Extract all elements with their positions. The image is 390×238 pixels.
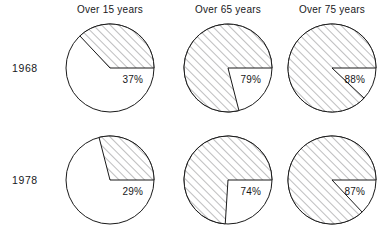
- pie-slice-shaded: [288, 24, 376, 112]
- pie-chart-1978-over-15-years: 29%: [58, 128, 162, 232]
- row-label-1968: 1968: [12, 62, 38, 74]
- pie-chart-1968-over-75-years: 88%: [280, 16, 384, 120]
- pie-value-label-1968-over-75-years: 88%: [345, 74, 366, 85]
- column-header-over-75-years: Over 75 years: [299, 4, 365, 15]
- column-header-over-65-years: Over 65 years: [195, 4, 261, 15]
- pie-value-label-1968-over-65-years: 79%: [241, 74, 262, 85]
- pie-chart-1968-over-15-years: 37%: [58, 16, 162, 120]
- column-header-over-15-years: Over 15 years: [77, 4, 143, 15]
- pie-value-label-1978-over-65-years: 74%: [241, 186, 262, 197]
- row-label-1978: 1978: [12, 174, 38, 186]
- pie-value-label-1968-over-15-years: 37%: [123, 74, 144, 85]
- pie-value-label-1978-over-15-years: 29%: [123, 186, 144, 197]
- pie-chart-1978-over-75-years: 87%: [280, 128, 384, 232]
- pie-chart-1978-over-65-years: 74%: [176, 128, 280, 232]
- pie-chart-1968-over-65-years: 79%: [176, 16, 280, 120]
- pie-matrix-figure: Over 15 years Over 65 years Over 75 year…: [0, 0, 390, 238]
- pie-value-label-1978-over-75-years: 87%: [345, 186, 366, 197]
